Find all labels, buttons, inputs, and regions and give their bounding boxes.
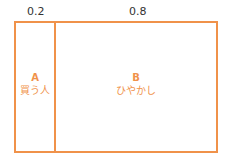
- region-b-key: B: [56, 71, 216, 84]
- region-a-text: 買う人: [16, 84, 54, 97]
- region-b-text: ひやかし: [56, 84, 216, 97]
- region-b-label: B ひやかし: [56, 71, 216, 97]
- region-a-key: A: [16, 71, 54, 84]
- ratio-label-a: 0.2: [27, 5, 45, 18]
- ratio-label-b: 0.8: [129, 5, 147, 18]
- region-a-label: A 買う人: [16, 71, 54, 97]
